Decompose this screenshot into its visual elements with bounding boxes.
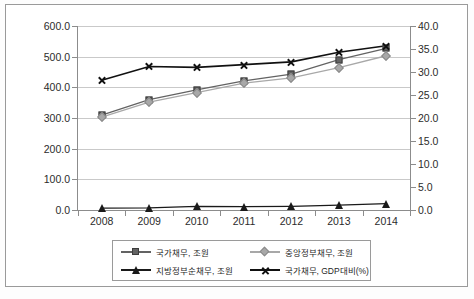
- data-point: [240, 203, 248, 211]
- x-marker: [382, 41, 391, 50]
- left-axis-tick: [72, 57, 77, 58]
- legend-marker: [132, 248, 139, 255]
- x-axis-tick-label: 2014: [375, 215, 398, 227]
- data-point: [241, 80, 248, 87]
- data-point: [145, 204, 153, 212]
- chart-screenshot: 0.0100.0200.0300.0400.0500.0600.0 0.05.0…: [0, 0, 474, 299]
- left-axis-tick: [72, 87, 77, 88]
- left-axis-tick: [72, 179, 77, 180]
- triangle-marker: [240, 203, 248, 211]
- triangle-marker: [98, 204, 106, 212]
- right-axis-tick-label: 20.0: [418, 112, 438, 124]
- left-axis-tick-label: 500.0: [44, 51, 70, 63]
- x-marker: [192, 63, 201, 72]
- legend-symbol: [121, 247, 151, 257]
- triangle-marker: [132, 266, 140, 274]
- data-point: [382, 41, 391, 50]
- triangle-marker: [287, 202, 295, 210]
- square-marker: [132, 248, 139, 255]
- data-point: [335, 64, 342, 71]
- legend-symbol: [250, 247, 280, 257]
- x-axis-tick: [78, 211, 79, 216]
- x-axis-tick-label: 2011: [233, 215, 256, 227]
- data-point: [193, 89, 200, 96]
- diamond-marker: [97, 112, 107, 122]
- x-axis-tick-label: 2009: [137, 215, 160, 227]
- x-axis-tick: [220, 211, 221, 216]
- right-axis-tick: [411, 164, 416, 165]
- legend-marker: [132, 266, 140, 274]
- left-axis-tick-label: 600.0: [44, 20, 70, 32]
- x-marker: [97, 76, 106, 85]
- chart-legend: 국가채무, 조원중앙정부채무, 조원지방정부순채무, 조원국가채무, GDP대비…: [112, 240, 371, 281]
- x-axis-tick-label: 2008: [90, 215, 113, 227]
- right-axis-tick-label: 25.0: [418, 89, 438, 101]
- right-axis-tick: [411, 210, 416, 211]
- right-axis-tick-label: 0.0: [418, 204, 433, 216]
- left-axis-tick-label: 300.0: [44, 112, 70, 124]
- data-point: [193, 202, 201, 210]
- diamond-marker: [259, 247, 269, 257]
- legend-symbol: [250, 265, 280, 275]
- data-point: [98, 204, 106, 212]
- left-axis-tick-label: 400.0: [44, 81, 70, 93]
- legend-item: 국가채무, 조원: [113, 243, 242, 261]
- x-axis-tick: [363, 211, 364, 216]
- plot-area: [78, 26, 410, 210]
- x-marker: [287, 57, 296, 66]
- legend-item: 지방정부순채무, 조원: [113, 261, 242, 279]
- right-axis-tick-label: 15.0: [418, 135, 438, 147]
- left-axis-tick: [72, 118, 77, 119]
- legend-label: 지방정부순채무, 조원: [156, 264, 233, 276]
- legend-item: 중앙정부채무, 조원: [242, 243, 371, 261]
- data-point: [146, 99, 153, 106]
- x-axis-tick: [268, 211, 269, 216]
- right-axis-tick-label: 10.0: [418, 158, 438, 170]
- series-lines: [78, 26, 410, 210]
- x-axis-tick-label: 2010: [185, 215, 208, 227]
- data-point: [383, 52, 390, 59]
- right-axis-tick: [411, 95, 416, 96]
- x-marker: [334, 48, 343, 57]
- footnote-text: [8, 290, 428, 299]
- data-point: [334, 48, 343, 57]
- x-axis-tick-label: 2013: [327, 215, 350, 227]
- diamond-marker: [381, 51, 391, 61]
- x-marker: [145, 62, 154, 71]
- diamond-marker: [239, 78, 249, 88]
- triangle-marker: [382, 200, 390, 208]
- triangle-marker: [335, 201, 343, 209]
- right-axis-tick-label: 35.0: [418, 43, 438, 55]
- right-axis-tick: [411, 187, 416, 188]
- chart-frame: 0.0100.0200.0300.0400.0500.0600.0 0.05.0…: [5, 4, 468, 287]
- data-point: [382, 200, 390, 208]
- data-point: [192, 63, 201, 72]
- data-point: [287, 202, 295, 210]
- triangle-marker: [193, 202, 201, 210]
- data-point: [288, 74, 295, 81]
- diamond-marker: [144, 97, 154, 107]
- data-point: [97, 76, 106, 85]
- legend-label: 국가채무, 조원: [156, 246, 209, 258]
- right-axis-tick: [411, 72, 416, 73]
- left-axis-tick-label: 100.0: [44, 173, 70, 185]
- right-axis-tick-label: 40.0: [418, 20, 438, 32]
- diamond-marker: [192, 88, 202, 98]
- data-point: [98, 114, 105, 121]
- left-axis-tick-label: 200.0: [44, 143, 70, 155]
- x-axis-tick: [125, 211, 126, 216]
- right-axis-tick: [411, 118, 416, 119]
- x-axis-tick: [315, 211, 316, 216]
- left-axis-tick-label: 0.0: [55, 204, 70, 216]
- right-axis-tick-label: 5.0: [418, 181, 433, 193]
- data-point: [240, 60, 249, 69]
- x-axis-tick: [173, 211, 174, 216]
- legend-item: 국가채무, GDP대비(%): [242, 261, 371, 279]
- x-marker: [261, 266, 270, 275]
- right-axis-tick: [411, 141, 416, 142]
- legend-label: 중앙정부채무, 조원: [285, 246, 354, 258]
- diamond-marker: [286, 73, 296, 83]
- x-marker: [240, 60, 249, 69]
- legend-label: 국가채무, GDP대비(%): [285, 264, 369, 276]
- legend-symbol: [121, 265, 151, 275]
